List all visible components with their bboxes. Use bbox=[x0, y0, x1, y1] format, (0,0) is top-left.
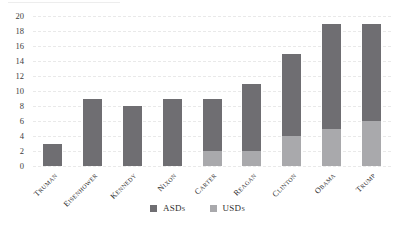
legend-label-usds: USDs bbox=[223, 203, 246, 213]
bar-eisenhower-asds bbox=[83, 99, 102, 167]
y-tick-label-6: 6 bbox=[20, 116, 24, 127]
x-label-trump: Trump bbox=[307, 171, 377, 227]
legend-label-asds: ASDs bbox=[163, 203, 186, 213]
bar-trump-usds bbox=[362, 121, 381, 166]
bar-kennedy-asds bbox=[123, 106, 142, 166]
gridline-y20 bbox=[33, 16, 391, 17]
legend-item-asds: ASDs bbox=[150, 203, 186, 213]
y-tick-label-8: 8 bbox=[20, 101, 24, 112]
bar-obama-usds bbox=[322, 129, 341, 167]
bar-nixon-asds bbox=[163, 99, 182, 167]
y-tick-label-12: 12 bbox=[16, 71, 25, 82]
legend: ASDsUSDs bbox=[0, 203, 395, 213]
gridline-y0 bbox=[33, 166, 391, 167]
bar-carter-usds bbox=[203, 151, 222, 166]
bar-reagan-usds bbox=[242, 151, 261, 166]
y-tick-label-20: 20 bbox=[16, 11, 25, 22]
bar-reagan-asds bbox=[242, 84, 261, 152]
legend-item-usds: USDs bbox=[210, 203, 246, 213]
bar-clinton-asds bbox=[282, 54, 301, 137]
y-tick-label-2: 2 bbox=[20, 146, 24, 157]
y-tick-label-14: 14 bbox=[16, 56, 25, 67]
bar-carter-asds bbox=[203, 99, 222, 152]
y-tick-label-4: 4 bbox=[20, 131, 24, 142]
y-axis-tick-labels: 02468101214161820 bbox=[0, 16, 26, 166]
bar-truman-asds bbox=[43, 144, 62, 167]
bar-clinton-usds bbox=[282, 136, 301, 166]
plot-area bbox=[33, 16, 391, 166]
y-tick-label-0: 0 bbox=[20, 161, 24, 172]
legend-swatch-icon-asds bbox=[150, 205, 157, 212]
stacked-bar-chart: 02468101214161820 TrumanEisenhowerKenned… bbox=[0, 0, 395, 227]
y-tick-label-10: 10 bbox=[16, 86, 25, 97]
y-tick-label-16: 16 bbox=[16, 41, 25, 52]
legend-swatch-icon-usds bbox=[210, 205, 217, 212]
top-edge-artifact-line bbox=[8, 2, 120, 3]
bar-trump-asds bbox=[362, 24, 381, 122]
bar-obama-asds bbox=[322, 24, 341, 129]
y-tick-label-18: 18 bbox=[16, 26, 25, 37]
